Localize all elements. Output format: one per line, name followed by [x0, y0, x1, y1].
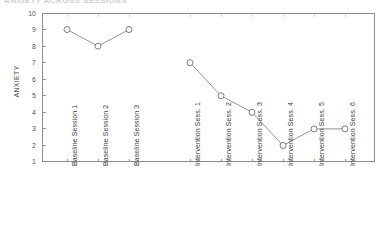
x-tick-top-6: [283, 14, 284, 17]
plot-area: [42, 13, 375, 162]
x-tick-top-0: [67, 14, 68, 17]
y-tick-label-1: 1: [10, 158, 36, 165]
y-tick-label-2: 2: [10, 142, 36, 149]
x-tick-top-3: [190, 14, 191, 17]
anxiety-line-chart: ANXIETY ACROSS SESSIONS ANXIETY 10 9 8 7…: [0, 0, 382, 234]
x-axis-label-intervention-sess-6: Intervention Sess. 6: [349, 102, 356, 166]
y-tick-mark-7: [43, 62, 46, 63]
x-tick-mark-2: [129, 159, 130, 162]
y-tick-label-3: 3: [10, 125, 36, 132]
x-tick-mark-4: [221, 159, 222, 162]
y-tick-label-8: 8: [10, 43, 36, 50]
x-axis-label-baseline-session-1: Baseline Session 1: [71, 105, 78, 166]
x-tick-mark-8: [345, 159, 346, 162]
chart-title: ANXIETY ACROSS SESSIONS: [4, 0, 127, 5]
y-tick-label-6: 6: [10, 76, 36, 83]
x-tick-top-8: [345, 14, 346, 17]
x-tick-mark-6: [283, 159, 284, 162]
y-tick-mark-4: [43, 112, 46, 113]
x-axis-label-intervention-sess-2: Intervention Sess. 2: [225, 102, 232, 166]
y-tick-mark-5: [43, 95, 46, 96]
x-axis-label-intervention-sess-4: Intervention Sess. 4: [287, 102, 294, 166]
y-tick-mark-8: [43, 46, 46, 47]
x-tick-mark-5: [252, 159, 253, 162]
x-tick-top-7: [314, 14, 315, 17]
y-tick-label-5: 5: [10, 92, 36, 99]
y-tick-mark-3: [43, 128, 46, 129]
x-tick-mark-3: [190, 159, 191, 162]
x-axis-label-intervention-sess-1: Intervention Sess. 1: [194, 102, 201, 166]
y-tick-mark-6: [43, 79, 46, 80]
x-tick-mark-1: [98, 159, 99, 162]
y-tick-mark-9: [43, 29, 46, 30]
x-tick-mark-7: [314, 159, 315, 162]
x-axis-label-intervention-sess-5: Intervention Sess. 5: [318, 102, 325, 166]
x-axis-label-intervention-sess-3: Intervention Sess. 3: [256, 102, 263, 166]
y-tick-label-7: 7: [10, 59, 36, 66]
y-tick-label-9: 9: [10, 26, 36, 33]
x-axis-label-baseline-session-3: Baseline Session 3: [133, 105, 140, 166]
y-tick-label-10: 10: [10, 10, 36, 17]
y-tick-mark-2: [43, 145, 46, 146]
y-tick-label-4: 4: [10, 109, 36, 116]
x-tick-top-5: [252, 14, 253, 17]
x-tick-top-1: [98, 14, 99, 17]
x-axis-label-baseline-session-2: Baseline Session 2: [102, 105, 109, 166]
x-tick-mark-0: [67, 159, 68, 162]
x-tick-top-4: [221, 14, 222, 17]
x-tick-top-2: [129, 14, 130, 17]
